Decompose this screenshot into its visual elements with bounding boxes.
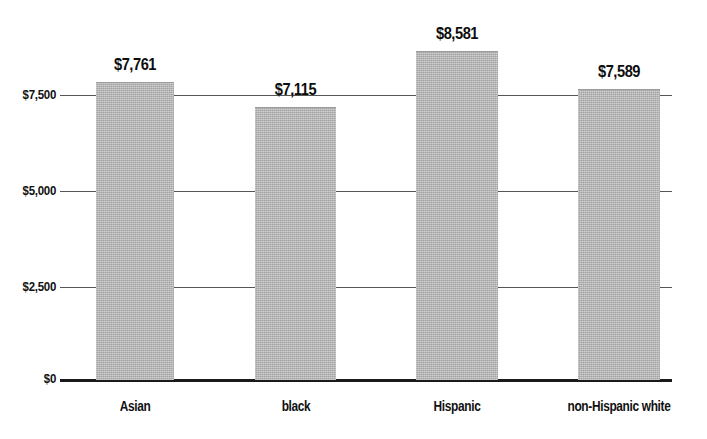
value-label-non-hispanic-white: $7,589	[584, 62, 655, 82]
y-tick-7500: $7,500	[0, 87, 56, 103]
y-tick-label: $7,500	[7, 87, 56, 102]
y-tick-label: $0	[7, 371, 56, 386]
category-label-non-hispanic-white: non-Hispanic white	[551, 398, 687, 414]
category-label-asian: Asian	[84, 398, 186, 414]
bar-non-hispanic-white	[578, 89, 660, 380]
category-label-black: black	[245, 398, 347, 414]
y-tick-2500: $2,500	[0, 279, 56, 295]
category-label-hispanic: Hispanic	[406, 398, 508, 414]
bar-black	[255, 107, 336, 380]
y-tick-0: $0	[0, 371, 56, 387]
value-label-black: $7,115	[261, 80, 331, 100]
bar-asian	[96, 82, 174, 380]
plot-area: $7,500 $5,000 $2,500 $0 $7,761 $7,115 $8…	[0, 0, 707, 439]
y-tick-label: $5,000	[7, 183, 56, 198]
value-label-asian: $7,761	[101, 55, 170, 75]
value-label-hispanic: $8,581	[422, 24, 493, 44]
bar-hispanic	[416, 51, 498, 380]
y-tick-label: $2,500	[7, 279, 56, 294]
y-tick-5000: $5,000	[0, 183, 56, 199]
bar-chart: $7,500 $5,000 $2,500 $0 $7,761 $7,115 $8…	[0, 0, 707, 439]
